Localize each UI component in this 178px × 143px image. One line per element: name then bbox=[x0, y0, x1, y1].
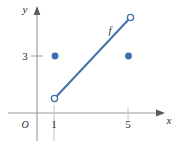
open-endpoint-right bbox=[127, 14, 133, 20]
y-axis-label: y bbox=[22, 3, 28, 15]
filled-point-left bbox=[52, 53, 59, 60]
y-tick-label-3: 3 bbox=[22, 50, 28, 62]
function-segment-f bbox=[55, 18, 130, 98]
origin-label: O bbox=[21, 119, 28, 130]
open-endpoint-left bbox=[51, 95, 57, 101]
x-axis-arrowhead bbox=[156, 110, 165, 117]
math-figure: y x O 3 1 5 f bbox=[0, 0, 178, 143]
x-axis-label: x bbox=[166, 114, 172, 126]
filled-point-right bbox=[125, 53, 132, 60]
y-axis-arrowhead bbox=[34, 6, 41, 15]
graph-canvas: y x O 3 1 5 f bbox=[0, 0, 178, 143]
function-label-f: f bbox=[108, 24, 113, 36]
x-tick-label-5: 5 bbox=[125, 118, 131, 130]
x-tick-label-1: 1 bbox=[51, 118, 57, 130]
